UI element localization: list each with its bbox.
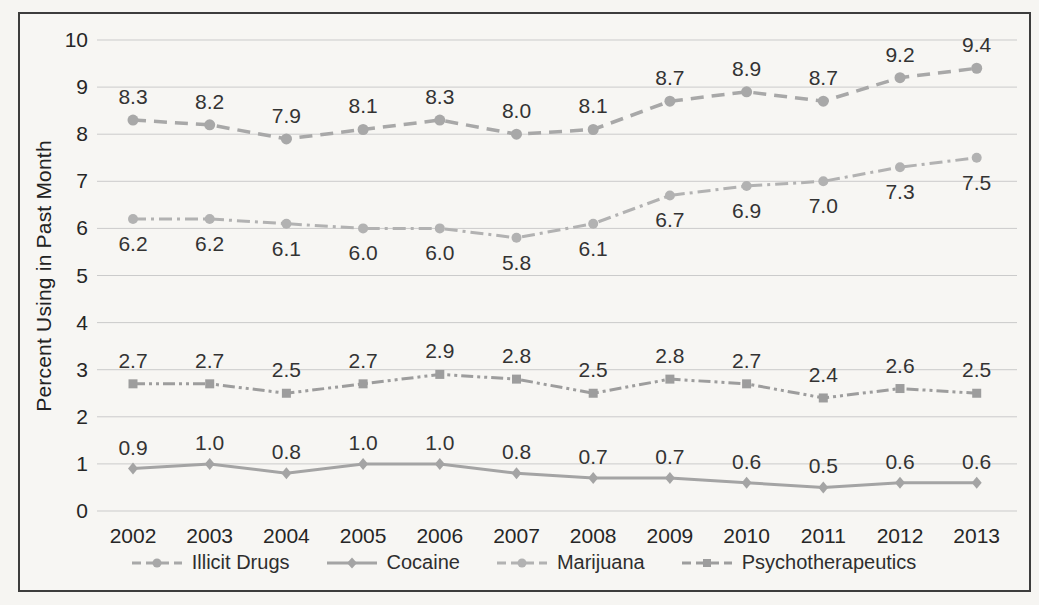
scanned-page: 0123456789102002200320042005200620072008…: [0, 0, 1039, 605]
x-tick-label: 2006: [416, 524, 463, 547]
y-tick-label: 5: [76, 264, 88, 287]
data-point-label: 8.1: [579, 94, 608, 117]
data-point-label: 0.6: [732, 450, 761, 473]
legend-item-illicit-drugs: Illicit Drugs: [131, 551, 290, 574]
data-point-label: 8.7: [809, 66, 838, 89]
legend-label-marijuana: Marijuana: [557, 551, 645, 574]
data-point-marker: [512, 375, 521, 384]
y-tick-label: 10: [65, 28, 88, 51]
data-point-label: 2.4: [809, 363, 839, 386]
series-cocaine: 0.91.00.81.01.00.80.70.70.60.50.60.6: [118, 431, 991, 494]
data-point-label: 6.7: [655, 208, 684, 231]
x-tick-label: 2011: [801, 524, 846, 547]
y-tick-label: 8: [76, 122, 88, 145]
y-tick-label: 0: [76, 499, 88, 522]
data-point-label: 0.6: [962, 450, 991, 473]
x-tick-label: 2013: [953, 524, 1000, 547]
data-point-label: 2.7: [732, 349, 761, 372]
data-point-label: 8.2: [195, 90, 224, 113]
data-point-marker: [281, 467, 291, 479]
data-point-marker: [971, 63, 982, 74]
data-point-label: 2.7: [118, 349, 147, 372]
data-point-marker: [895, 477, 905, 489]
data-point-marker: [358, 124, 369, 135]
series-line-cocaine: [133, 464, 977, 488]
data-point-marker: [588, 472, 598, 484]
x-tick-label: 2012: [877, 524, 924, 547]
data-point-marker: [742, 181, 752, 191]
data-point-marker: [588, 124, 599, 135]
data-point-marker: [204, 119, 215, 130]
x-tick-label: 2009: [647, 524, 694, 547]
series-illicit-drugs: 8.38.27.98.18.38.08.18.78.98.79.29.4: [118, 33, 991, 144]
data-point-marker: [742, 379, 751, 388]
legend-label-illicit-drugs: Illicit Drugs: [192, 551, 290, 574]
data-point-marker: [665, 190, 675, 200]
data-point-label: 8.3: [425, 85, 454, 108]
y-tick-label: 6: [76, 216, 88, 239]
data-point-marker: [895, 72, 906, 83]
data-point-label: 6.2: [118, 232, 147, 255]
data-point-marker: [665, 375, 674, 384]
legend-item-psychotherapeutics: Psychotherapeutics: [681, 551, 917, 574]
data-point-marker: [511, 129, 522, 140]
data-point-marker: [205, 214, 215, 224]
data-point-label: 6.2: [195, 232, 224, 255]
legend-swatch-psychotherapeutics: [681, 555, 733, 571]
y-tick-label: 4: [76, 311, 88, 334]
chart-canvas: 0123456789102002200320042005200620072008…: [0, 0, 1039, 605]
x-tick-label: 2008: [570, 524, 617, 547]
data-point-marker: [741, 86, 752, 97]
data-point-marker: [358, 458, 368, 470]
legend-swatch-illicit-drugs: [131, 555, 183, 571]
data-point-label: 9.2: [885, 43, 914, 66]
data-point-label: 5.8: [502, 251, 531, 274]
y-tick-label: 2: [76, 405, 88, 428]
series-line-illicit-drugs: [133, 68, 977, 139]
data-point-label: 0.7: [579, 445, 608, 468]
data-point-label: 0.5: [809, 454, 838, 477]
data-point-label: 0.9: [118, 436, 147, 459]
data-point-label: 6.9: [732, 199, 761, 222]
data-point-marker: [512, 467, 522, 479]
data-point-label: 2.8: [502, 344, 531, 367]
data-point-marker: [128, 463, 138, 475]
data-point-label: 0.7: [655, 445, 684, 468]
data-point-marker: [128, 214, 138, 224]
series-line-marijuana: [133, 158, 977, 238]
data-point-marker: [282, 389, 291, 398]
x-tick-label: 2003: [186, 524, 233, 547]
data-point-marker: [358, 223, 368, 233]
data-point-label: 6.1: [579, 237, 608, 260]
legend-label-psychotherapeutics: Psychotherapeutics: [742, 551, 917, 574]
data-point-marker: [205, 458, 215, 470]
data-point-marker: [205, 379, 214, 388]
data-point-label: 0.6: [885, 450, 914, 473]
series-line-psychotherapeutics: [133, 374, 977, 398]
data-point-label: 7.5: [962, 171, 991, 194]
data-point-label: 2.8: [655, 344, 684, 367]
data-point-marker: [896, 384, 905, 393]
x-tick-label: 2007: [493, 524, 540, 547]
y-tick-label: 3: [76, 358, 88, 381]
data-point-marker: [435, 458, 445, 470]
data-point-marker: [742, 477, 752, 489]
data-point-marker: [359, 379, 368, 388]
data-point-label: 8.1: [348, 94, 377, 117]
data-point-marker: [588, 219, 598, 229]
data-point-marker: [589, 389, 598, 398]
x-tick-label: 2002: [110, 524, 157, 547]
data-point-label: 0.8: [272, 440, 301, 463]
y-axis-title: Percent Using in Past Month: [32, 140, 56, 412]
series-psychotherapeutics: 2.72.72.52.72.92.82.52.82.72.42.62.5: [118, 339, 991, 402]
data-point-label: 6.0: [348, 241, 377, 264]
chart-legend: Illicit Drugs Cocaine Marijuana Psychoth…: [20, 551, 1027, 574]
legend-swatch-cocaine: [326, 555, 378, 571]
data-point-label: 2.6: [885, 354, 914, 377]
data-point-label: 2.5: [272, 358, 301, 381]
legend-item-marijuana: Marijuana: [496, 551, 645, 574]
data-point-marker: [818, 176, 828, 186]
legend-swatch-marijuana: [496, 555, 548, 571]
data-point-label: 1.0: [195, 431, 224, 454]
x-tick-label: 2010: [723, 524, 770, 547]
